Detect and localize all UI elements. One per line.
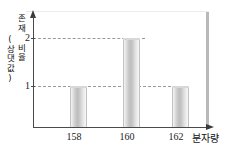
x-tick-label-162: 162 (160, 131, 192, 143)
y-tick-label-1: 1 (13, 81, 30, 91)
bar-158-cap (70, 86, 87, 88)
bar-158 (70, 86, 87, 127)
y-tick-label-2: 2 (13, 33, 30, 43)
x-tick-label-160: 160 (111, 131, 143, 143)
bar-162 (172, 86, 189, 127)
bar-160-cap (123, 38, 140, 40)
x-axis-title: 분자량 (192, 133, 219, 145)
bar-series (33, 12, 209, 127)
bar-162-cap (172, 86, 189, 88)
x-tick-label-158: 158 (58, 131, 90, 143)
bar-chart-figure: 존재 비율 (상댓값) 2 1 158 160 162 분자량 (0, 0, 236, 155)
bar-160 (123, 38, 140, 127)
x-axis-line (33, 127, 209, 128)
